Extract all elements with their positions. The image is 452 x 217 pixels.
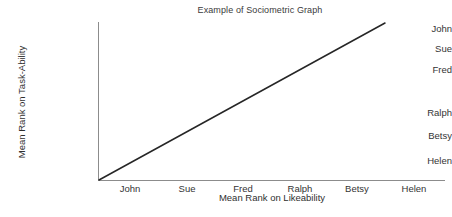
sociometric-graph-figure: Example of Sociometric Graph Mean Rank o… xyxy=(0,0,452,217)
x-axis-line xyxy=(98,180,445,181)
y-axis-title: Mean Rank on Task-Ability xyxy=(16,22,30,182)
x-tick-label: John xyxy=(100,183,160,194)
y-tick-label: Betsy xyxy=(357,130,452,141)
x-tick-label: Helen xyxy=(384,183,444,194)
y-tick-label: Ralph xyxy=(357,107,452,118)
x-tick-label: Ralph xyxy=(270,183,330,194)
y-tick-label: Helen xyxy=(357,155,452,166)
y-axis-line xyxy=(98,22,99,180)
x-tick-label: Sue xyxy=(157,183,217,194)
y-tick-label: Sue xyxy=(357,43,452,54)
x-tick-label: Fred xyxy=(213,183,273,194)
x-tick-label: Betsy xyxy=(327,183,387,194)
scan-edge-artifact xyxy=(0,210,452,213)
chart-title: Example of Sociometric Graph xyxy=(0,5,452,15)
y-tick-label: Fred xyxy=(357,64,452,75)
chart-title-text: Example of Sociometric Graph xyxy=(198,5,323,15)
y-tick-label: John xyxy=(357,23,452,34)
data-line-series-0 xyxy=(99,23,385,180)
